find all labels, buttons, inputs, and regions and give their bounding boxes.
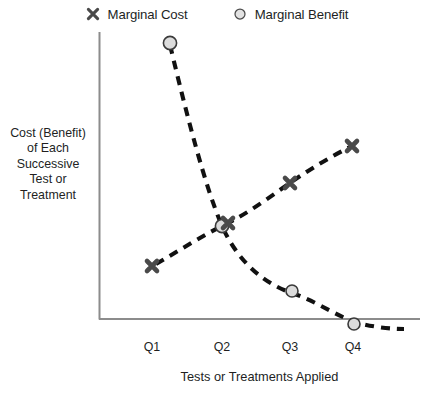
y-axis-title-line-2: of Each	[2, 141, 94, 156]
x-tick-label-q1: Q1	[132, 340, 172, 354]
y-axis-title-line-3: Successive	[2, 157, 94, 172]
marginal-cost-curve	[156, 147, 350, 264]
data-point-cost-q3	[285, 178, 295, 188]
data-point-benefit-q3	[286, 285, 298, 297]
chart-container: Marginal Cost Marginal Benefit	[0, 0, 433, 393]
x-tick-label-q4: Q4	[333, 340, 373, 354]
x-axis-title: Tests or Treatments Applied	[99, 369, 420, 384]
data-point-cost-q1	[147, 261, 157, 271]
y-axis-title-line-1: Cost (Benefit)	[2, 126, 94, 141]
y-axis-title: Cost (Benefit) of Each Successive Test o…	[2, 126, 94, 203]
data-point-benefit-q4	[348, 318, 360, 330]
y-axis-title-line-4: Test or	[2, 172, 94, 187]
x-tick-label-q3: Q3	[270, 340, 310, 354]
x-tick-label-q2: Q2	[202, 340, 242, 354]
data-point-benefit-q1	[163, 36, 176, 49]
y-axis-title-line-5: Treatment	[2, 188, 94, 203]
